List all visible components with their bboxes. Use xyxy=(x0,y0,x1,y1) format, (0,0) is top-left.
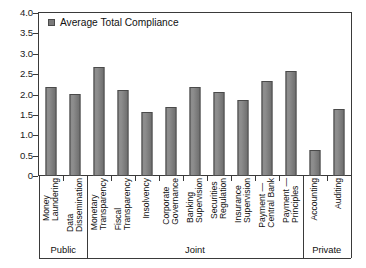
category-label-line: Insolvency xyxy=(141,178,151,219)
bar[interactable] xyxy=(261,81,272,176)
x-axis-category-label: SecuritiesRegulation xyxy=(207,178,231,240)
y-axis-tick-label: 3.0 xyxy=(3,49,33,59)
y-axis-tick-label: 0 xyxy=(3,171,33,181)
y-axis-tick-label: 2.5 xyxy=(3,69,33,79)
bar[interactable] xyxy=(70,94,81,176)
bar-slot xyxy=(135,13,159,176)
bar[interactable] xyxy=(46,87,57,176)
bar-slot xyxy=(111,13,135,176)
bar[interactable] xyxy=(118,90,129,176)
bar-slot xyxy=(255,13,279,176)
group-label: Private xyxy=(303,240,351,258)
bar[interactable] xyxy=(189,87,200,176)
bar[interactable] xyxy=(333,109,344,176)
x-axis-category-label: CorporateGovernance xyxy=(159,178,183,240)
x-axis-category-label: Accounting xyxy=(303,178,327,240)
x-axis-category-label: InsuranceSupervision xyxy=(231,178,255,240)
group-band-bottom-rule xyxy=(39,258,350,259)
x-axis-category-label: BankingSupervision xyxy=(183,178,207,240)
category-label-line: Payment — xyxy=(280,178,290,223)
bar-slot xyxy=(159,13,183,176)
x-axis-category-label: MoneyLaundering xyxy=(39,178,63,240)
bar[interactable] xyxy=(142,112,153,176)
category-label-line: Transparency xyxy=(99,178,108,230)
category-label-line: Auditing xyxy=(333,178,343,209)
y-axis-tick-label: 4.0 xyxy=(3,8,33,18)
bar-slot xyxy=(63,13,87,176)
x-axis-category-label: Payment —Central Bank xyxy=(255,178,279,240)
y-axis-tick-label: 1.0 xyxy=(3,130,33,140)
bar[interactable] xyxy=(166,107,177,176)
bar-slot xyxy=(303,13,327,176)
group-label: Joint xyxy=(87,240,303,258)
y-axis-tick-label: 1.5 xyxy=(3,110,33,120)
chart-container: 4.03.53.02.52.01.51.00.50 Average Total … xyxy=(0,0,366,268)
bar-slot xyxy=(327,13,351,176)
bar-slot xyxy=(87,13,111,176)
category-label-line: Regulation xyxy=(219,178,228,219)
bar-slot xyxy=(231,13,255,176)
x-axis-category-label: Payment —Principles xyxy=(279,178,303,240)
category-label-line: Central Bank xyxy=(267,178,276,228)
bar[interactable] xyxy=(213,92,224,176)
x-axis-group-band: PublicJointPrivate xyxy=(39,240,350,264)
x-axis-category-label: Insolvency xyxy=(135,178,159,240)
x-axis-category-label: FiscalTransparency xyxy=(111,178,135,240)
y-axis-tick-label: 3.5 xyxy=(3,29,33,39)
category-label-line: Supervision xyxy=(243,178,252,223)
bar-slot xyxy=(183,13,207,176)
y-axis-tick-label: 0.5 xyxy=(3,151,33,161)
x-axis-category-labels: MoneyLaunderingDataDisseminationMonetary… xyxy=(39,178,350,240)
bar-slot xyxy=(39,13,63,176)
category-label-line: Principles xyxy=(291,178,300,223)
x-axis-category-label: Auditing xyxy=(327,178,351,240)
category-label-line: Payment — xyxy=(256,183,266,228)
category-label-line: Transparency xyxy=(123,178,132,230)
y-axis-tick-mark xyxy=(33,176,38,177)
bar-series xyxy=(39,13,350,176)
bar-slot xyxy=(279,13,303,176)
bar[interactable] xyxy=(285,71,296,176)
category-label-line: Governance xyxy=(171,178,180,225)
bar[interactable] xyxy=(94,67,105,176)
category-label-line: Accounting xyxy=(309,178,319,221)
category-label-line: Supervision xyxy=(195,178,204,223)
bar[interactable] xyxy=(237,100,248,176)
y-axis-tick-label: 2.0 xyxy=(3,90,33,100)
group-separator xyxy=(351,178,352,258)
group-label: Public xyxy=(39,240,87,258)
category-label-line: Insurance xyxy=(232,185,242,223)
category-label-line: Dissemination xyxy=(75,178,84,232)
category-label-line: Laundering xyxy=(51,178,60,221)
x-axis-category-label: DataDissemination xyxy=(63,178,87,240)
bar-slot xyxy=(207,13,231,176)
y-axis: 4.03.53.02.52.01.51.00.50 xyxy=(0,0,33,268)
bar[interactable] xyxy=(309,150,320,176)
x-axis-category-label: MonetaryTransparency xyxy=(87,178,111,240)
